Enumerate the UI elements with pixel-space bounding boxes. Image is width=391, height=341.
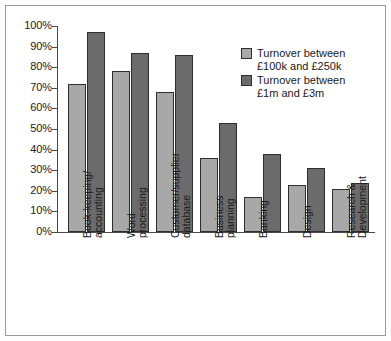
- y-axis-tick-label: 100%: [6, 20, 52, 31]
- x-axis-category-label: Book-keeping/ accounting: [82, 171, 104, 238]
- x-axis-category-label: Customer/supplier database: [170, 153, 192, 238]
- y-axis-tick-label: 80%: [6, 61, 52, 72]
- y-axis-tick-label: 0%: [6, 226, 52, 237]
- y-axis-tick-label: 30%: [6, 164, 52, 175]
- y-axis-tick-label: 20%: [6, 185, 52, 196]
- legend-label-series-2: Turnover between £1m and £3m: [257, 74, 345, 99]
- x-axis-category-label: Design: [302, 205, 313, 238]
- x-axis-category-label: Business planning: [214, 195, 236, 238]
- legend-swatch-series-2: [241, 75, 252, 86]
- y-axis-tick: [52, 88, 57, 89]
- y-axis-tick-label: 50%: [6, 123, 52, 134]
- y-axis-tick: [52, 67, 57, 68]
- y-axis-tick: [52, 47, 57, 48]
- chart-legend: Turnover between £100k and £250k Turnove…: [241, 47, 345, 101]
- y-axis-line: [57, 26, 58, 233]
- y-axis-tick: [52, 150, 57, 151]
- y-axis-tick-label: 40%: [6, 144, 52, 155]
- y-axis-tick: [52, 211, 57, 212]
- y-axis-tick: [52, 129, 57, 130]
- x-axis-category-label: Research & Development: [346, 176, 368, 238]
- y-axis-tick-label: 10%: [6, 205, 52, 216]
- x-axis-category-label: Word processing: [126, 187, 148, 238]
- y-axis-tick: [52, 170, 57, 171]
- legend-swatch-series-1: [241, 48, 252, 59]
- y-axis-tick: [52, 108, 57, 109]
- x-axis-category-label: Banking: [258, 200, 269, 238]
- y-axis-tick-label: 90%: [6, 41, 52, 52]
- chart-container: 100%90%80%70%60%50%40%30%20%10%0% Book-k…: [0, 0, 391, 341]
- y-axis-tick-label: 60%: [6, 102, 52, 113]
- legend-item: Turnover between £1m and £3m: [241, 74, 345, 99]
- legend-label-series-1: Turnover between £100k and £250k: [257, 47, 345, 72]
- y-axis-tick-label: 70%: [6, 82, 52, 93]
- y-axis-tick: [52, 191, 57, 192]
- y-axis-tick: [52, 26, 57, 27]
- legend-item: Turnover between £100k and £250k: [241, 47, 345, 72]
- y-axis-tick: [52, 232, 57, 233]
